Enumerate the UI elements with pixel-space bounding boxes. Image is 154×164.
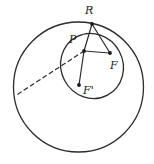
point-label-F-prime: F' [83,85,94,96]
point-F-dot [108,51,112,55]
point-label-P: P [69,34,76,45]
geometry-canvas [0,0,154,164]
segment-P-Fprime [79,51,84,85]
point-P-dot [82,49,86,53]
geometry-diagram: R P F F' [0,0,154,164]
segment-P-chord-left [15,51,84,96]
point-Fprime-dot [77,83,81,87]
point-R-dot [90,22,94,26]
point-label-F: F [110,60,118,71]
segment-R-P [84,24,92,51]
point-label-R: R [85,5,93,16]
segment-P-F [84,51,110,53]
outer-circle [14,22,144,152]
